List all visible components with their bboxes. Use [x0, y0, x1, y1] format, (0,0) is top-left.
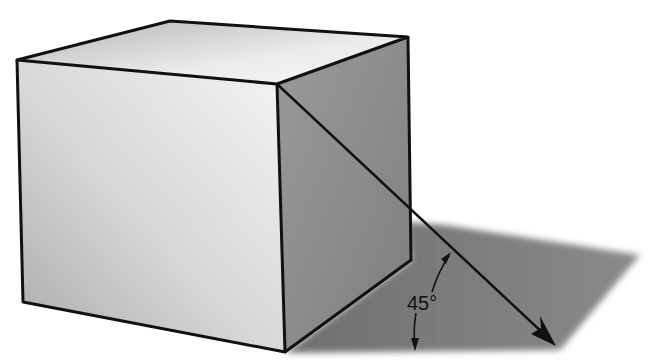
- cube-shadow-diagram: 45°: [0, 0, 650, 362]
- angle-label: 45°: [407, 292, 437, 314]
